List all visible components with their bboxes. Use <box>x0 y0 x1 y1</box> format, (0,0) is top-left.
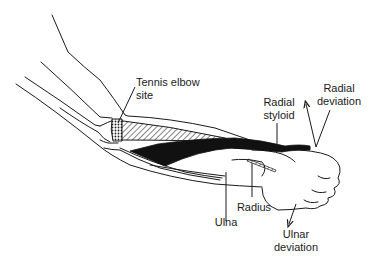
forearm-illustration <box>0 0 376 262</box>
forearm-diagram: Tennis elbow site Radial styloid Radial … <box>0 0 376 262</box>
tennis-elbow-leader <box>118 87 135 123</box>
wrist-tendon-hatched <box>247 159 276 172</box>
upper-arm-lower-line <box>25 77 100 126</box>
tennis-elbow-label: Tennis elbow site <box>136 76 200 102</box>
ulnar-deviation-label-line1: Ulnar <box>269 228 323 241</box>
tennis-elbow-label-line2: site <box>136 89 200 102</box>
ulna-label: Ulna <box>210 216 242 229</box>
radial-styloid-label-line1: Radial <box>259 96 299 109</box>
ulnar-deviation-label-line2: deviation <box>269 241 323 254</box>
ulnar-deviation-arrow <box>289 204 296 224</box>
radial-deviation-label-line1: Radial <box>312 82 366 95</box>
radial-deviation-label-line2: deviation <box>312 95 366 108</box>
tennis-elbow-site <box>111 119 122 141</box>
tennis-elbow-label-line1: Tennis elbow <box>136 76 200 89</box>
ulna-label-text: Ulna <box>215 216 238 228</box>
radius-label: Radius <box>234 201 274 214</box>
radial-styloid-label-line2: styloid <box>259 109 299 122</box>
radial-styloid-label: Radial styloid <box>259 96 299 122</box>
extensor-tendon-dark <box>130 138 310 166</box>
radial-deviation-leader <box>316 110 330 147</box>
finger-creases <box>304 176 330 203</box>
radius-label-text: Radius <box>237 201 271 213</box>
thumb-outline <box>252 150 295 162</box>
ulnar-deviation-label: Ulnar deviation <box>269 228 323 254</box>
radial-deviation-label: Radial deviation <box>312 82 366 108</box>
radial-deviation-arrow <box>306 104 316 147</box>
